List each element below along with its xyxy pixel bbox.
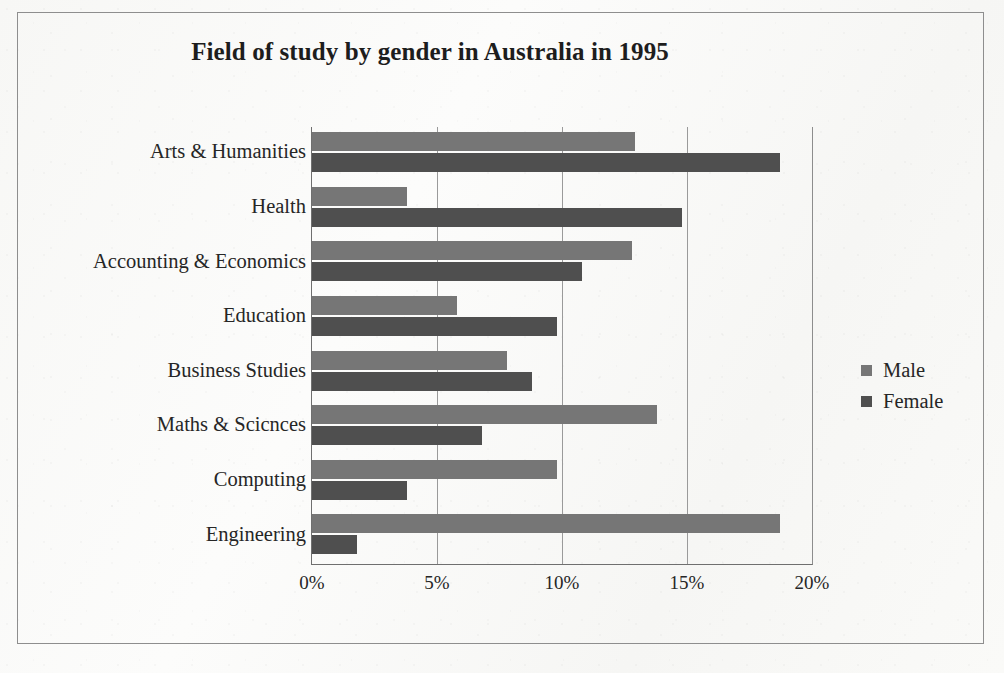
- bar-male: [312, 514, 780, 533]
- legend-label: Female: [883, 390, 943, 413]
- x-axis-tick-label: 5%: [402, 572, 472, 594]
- x-axis-tick-label: 10%: [527, 572, 597, 594]
- x-axis-tick-label: 20%: [777, 572, 847, 594]
- bar-female: [312, 426, 482, 445]
- category-axis-label: Business Studies: [16, 359, 306, 382]
- bar-female: [312, 481, 407, 500]
- category-axis-label: Maths & Scicnces: [16, 413, 306, 436]
- bar-female: [312, 153, 780, 172]
- category-group: [312, 127, 812, 182]
- bar-female: [312, 262, 582, 281]
- category-group: [312, 400, 812, 455]
- category-axis-label: Engineering: [16, 523, 306, 546]
- category-group: [312, 455, 812, 510]
- square-swatch-female-icon: [861, 396, 872, 407]
- category-group: [312, 291, 812, 346]
- plot-area: Arts & HumanitiesHealthAccounting & Econ…: [311, 127, 813, 565]
- category-group: [312, 182, 812, 237]
- category-group: [312, 236, 812, 291]
- category-group: [312, 346, 812, 401]
- bar-male: [312, 405, 657, 424]
- bar-male: [312, 351, 507, 370]
- category-axis-label: Arts & Humanities: [16, 140, 306, 163]
- chart-title: Field of study by gender in Australia in…: [35, 38, 825, 66]
- bar-male: [312, 187, 407, 206]
- x-axis-tick-label: 0%: [277, 572, 347, 594]
- x-axis-tick-label: 15%: [652, 572, 722, 594]
- bar-chart-figure: Field of study by gender in Australia in…: [35, 30, 967, 630]
- square-swatch-male-icon: [861, 365, 872, 376]
- category-axis-label: Education: [16, 304, 306, 327]
- legend-item-male: Male: [861, 355, 967, 386]
- category-axis-label: Accounting & Economics: [16, 250, 306, 273]
- category-axis-label: Computing: [16, 468, 306, 491]
- category-axis-label: Health: [16, 195, 306, 218]
- legend-label: Male: [883, 359, 925, 382]
- chart-legend: MaleFemale: [861, 355, 967, 417]
- bar-female: [312, 317, 557, 336]
- bar-female: [312, 535, 357, 554]
- bar-male: [312, 296, 457, 315]
- legend-item-female: Female: [861, 386, 967, 417]
- bar-male: [312, 460, 557, 479]
- bar-female: [312, 208, 682, 227]
- bar-female: [312, 372, 532, 391]
- bar-male: [312, 132, 635, 151]
- category-group: [312, 509, 812, 564]
- bar-male: [312, 241, 632, 260]
